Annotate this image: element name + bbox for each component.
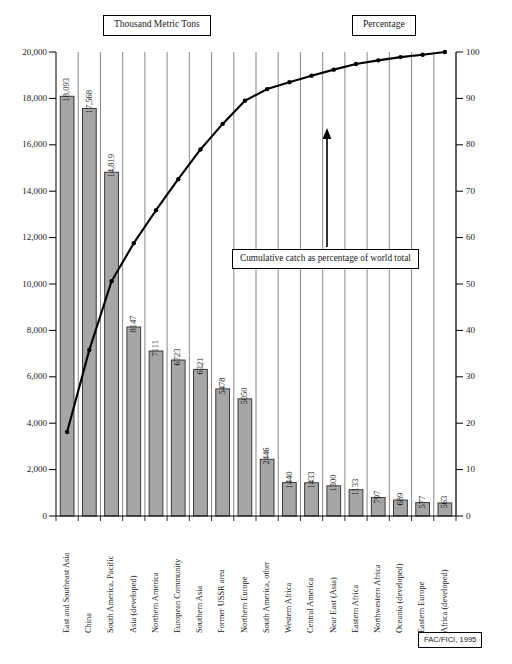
category-label: Asia (developed) <box>130 576 138 633</box>
category-label: South America, other <box>263 562 271 633</box>
cumulative-line-marker <box>243 99 247 103</box>
bar-value-label: 1300 <box>329 474 338 491</box>
bar <box>194 369 208 516</box>
right-axis-tick-label: 80 <box>466 140 475 149</box>
bar-value-label: 689 <box>396 493 405 506</box>
bar-value-label: 5478 <box>218 377 227 394</box>
right-axis-tick-label: 50 <box>466 280 475 289</box>
bar-value-label: 18,093 <box>63 78 72 102</box>
right-axis-tick-label: 0 <box>466 512 471 521</box>
source-credit-box: FAC/FICI, 1995 <box>418 632 482 648</box>
bar-value-label: 6321 <box>196 358 205 375</box>
left-axis-tick-label: 12,000 <box>3 233 47 242</box>
right-axis-tick-label: 60 <box>466 233 475 242</box>
cumulative-line-marker <box>398 55 402 59</box>
bar-value-label: 17,568 <box>85 90 94 114</box>
bar-value-label: 8147 <box>129 315 138 332</box>
cumulative-line-marker <box>354 62 358 66</box>
category-label: Northern Europe <box>241 576 249 633</box>
left-axis-tick-label: 14,000 <box>3 187 47 196</box>
left-axis-tick-label: 8,000 <box>3 326 47 335</box>
category-label: European Community <box>174 559 182 633</box>
left-axis-tick-label: 10,000 <box>3 280 47 289</box>
right-axis-tick-label: 90 <box>466 94 475 103</box>
category-label: Eastern Europe <box>418 582 426 633</box>
bar-value-label: 6723 <box>174 348 183 365</box>
cumulative-annotation-label: Cumulative catch as percentage of world … <box>232 249 419 269</box>
right-axis-tick-label: 70 <box>466 187 475 196</box>
cumulative-line-marker <box>220 122 224 126</box>
right-axis-title-box: Percentage <box>352 15 416 36</box>
cumulative-line-marker <box>176 177 180 181</box>
bar <box>105 172 119 516</box>
category-label: Central America <box>307 578 315 633</box>
left-axis-tick-label: 2,000 <box>3 465 47 474</box>
bar <box>260 459 274 516</box>
bar-value-label: 1440 <box>285 471 294 488</box>
category-label: Oceania (developed) <box>396 563 404 633</box>
category-label: Western Africa <box>285 583 293 633</box>
bar <box>149 351 163 516</box>
left-axis-tick-label: 18,000 <box>3 94 47 103</box>
plot-area <box>0 0 512 664</box>
pareto-chart: Thousand Metric Tons Percentage Cumulati… <box>0 0 512 664</box>
left-axis-tick-label: 16,000 <box>3 140 47 149</box>
cumulative-line-marker <box>443 50 447 54</box>
category-label: South America, Pacific <box>107 556 115 633</box>
cumulative-line-marker <box>198 147 202 151</box>
category-label: Northern America <box>152 572 160 633</box>
right-axis-tick-label: 30 <box>466 372 475 381</box>
cumulative-line-marker <box>376 58 380 62</box>
cumulative-line-marker <box>265 87 269 91</box>
right-axis-tick-label: 40 <box>466 326 475 335</box>
bar <box>171 360 185 516</box>
left-axis-tick-label: 0 <box>3 512 47 521</box>
bar <box>216 389 230 516</box>
cumulative-line-marker <box>309 73 313 77</box>
left-axis-tick-label: 4,000 <box>3 419 47 428</box>
bar-value-label: 14,819 <box>107 154 116 178</box>
cumulative-line-marker <box>109 279 113 283</box>
category-label: Near East (Asia) <box>330 577 338 633</box>
cumulative-line-marker <box>65 430 69 434</box>
bar-value-label: 797 <box>374 490 383 503</box>
bar-value-label: 563 <box>440 496 449 509</box>
cumulative-line-marker <box>132 241 136 245</box>
bar-value-label: 5050 <box>240 387 249 404</box>
cumulative-line-marker <box>332 67 336 71</box>
bar-value-label: 1133 <box>352 478 361 495</box>
category-label: Eastern Africa <box>352 585 360 633</box>
bar <box>60 96 74 516</box>
category-label: Africa (developed) <box>441 570 449 633</box>
cumulative-line-marker <box>420 53 424 57</box>
bar-value-label: 2446 <box>263 448 272 465</box>
cumulative-line-marker <box>87 348 91 352</box>
left-axis-title-box: Thousand Metric Tons <box>103 15 211 36</box>
category-label: Former USSR area <box>218 569 226 633</box>
bar <box>127 327 141 516</box>
left-axis-tick-label: 20,000 <box>3 48 47 57</box>
annotation-arrow-head <box>323 128 332 139</box>
cumulative-line-marker <box>154 208 158 212</box>
category-label: China <box>85 613 93 633</box>
bar-value-label: 577 <box>418 495 427 508</box>
category-label: Northwestern Africa <box>374 564 382 633</box>
right-axis-tick-label: 10 <box>466 465 475 474</box>
bar-value-label: 7111 <box>152 340 161 357</box>
cumulative-line-marker <box>287 80 291 84</box>
category-label: Southern Asia <box>196 586 204 633</box>
bar <box>82 108 96 516</box>
right-axis-tick-label: 20 <box>466 419 475 428</box>
bar-value-label: 1433 <box>307 471 316 488</box>
left-axis-tick-label: 6,000 <box>3 372 47 381</box>
category-label: East and Southeast Asia <box>63 553 71 633</box>
right-axis-tick-label: 100 <box>466 48 480 57</box>
bar <box>238 399 252 516</box>
